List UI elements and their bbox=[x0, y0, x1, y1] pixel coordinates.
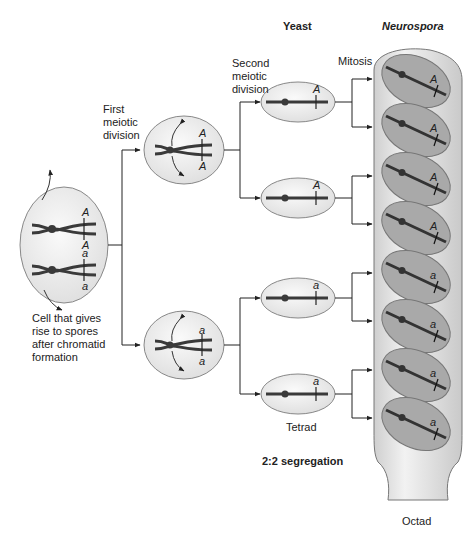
tetrad-spore bbox=[261, 82, 335, 122]
first-meiotic-label: First meiotic division bbox=[103, 103, 140, 142]
meiosis1-cell-lower bbox=[144, 311, 224, 379]
neurospora-header: Neurospora bbox=[382, 20, 444, 32]
allele-label: A bbox=[312, 83, 320, 95]
mitosis-connectors bbox=[335, 79, 372, 418]
start-cell-caption: Cell that gives rise to spores after chr… bbox=[32, 312, 105, 364]
allele-label: A bbox=[429, 171, 437, 183]
allele-label: a bbox=[430, 318, 436, 330]
second-meiotic-label: Second meiotic division bbox=[232, 57, 269, 96]
allele-label: A bbox=[429, 73, 437, 85]
start-cell bbox=[20, 170, 108, 310]
tetrad-spore bbox=[261, 374, 335, 414]
allele-label: a bbox=[82, 280, 88, 292]
allele-label: A bbox=[429, 122, 437, 134]
allele-label: a bbox=[313, 279, 319, 291]
allele-label: a bbox=[430, 269, 436, 281]
mitosis-label: Mitosis bbox=[338, 55, 372, 68]
octad-label: Octad bbox=[402, 515, 431, 528]
tetrad-spore bbox=[261, 178, 335, 218]
allele-label: A bbox=[429, 220, 437, 232]
allele-label: a bbox=[199, 324, 205, 336]
allele-label: a bbox=[430, 367, 436, 379]
segregation-label: 2:2 segregation bbox=[262, 455, 343, 467]
allele-label: A bbox=[81, 206, 89, 218]
connector-lines bbox=[108, 150, 140, 345]
allele-label: a bbox=[82, 247, 88, 259]
allele-label: a bbox=[430, 416, 436, 428]
allele-label: a bbox=[199, 355, 205, 367]
allele-label: a bbox=[313, 375, 319, 387]
tetrad bbox=[261, 82, 335, 414]
tetrad-spore bbox=[261, 278, 335, 318]
tetrad-label: Tetrad bbox=[286, 421, 317, 434]
allele-label: A bbox=[198, 127, 206, 139]
allele-label: A bbox=[198, 160, 206, 172]
meiosis1-cell-upper bbox=[144, 116, 224, 184]
connector-lines bbox=[224, 102, 260, 394]
yeast-header: Yeast bbox=[283, 20, 312, 32]
allele-label: A bbox=[312, 179, 320, 191]
